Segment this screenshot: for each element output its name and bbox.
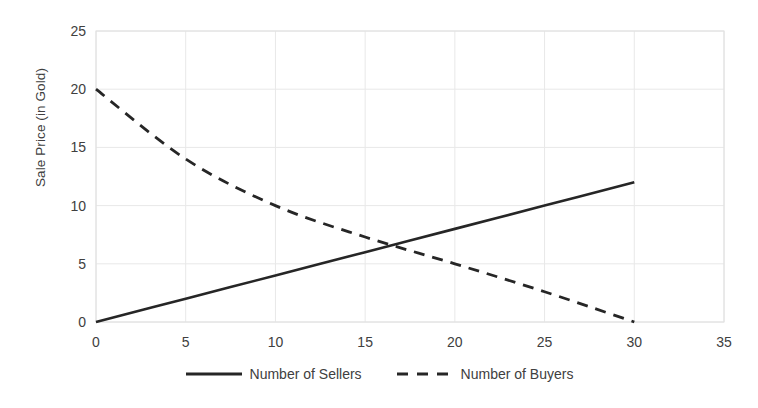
y-tick-label: 15 bbox=[40, 139, 86, 155]
chart-container: Sale Price (in Gold) 0510152025 05101520… bbox=[0, 0, 758, 408]
x-tick-label: 20 bbox=[447, 334, 463, 350]
dashed-line-swatch bbox=[396, 368, 454, 380]
gridlines bbox=[96, 31, 724, 322]
y-tick-label: 10 bbox=[40, 198, 86, 214]
chart-legend: Number of SellersNumber of Buyers bbox=[0, 366, 758, 382]
x-tick-label: 25 bbox=[537, 334, 553, 350]
plot-border bbox=[96, 31, 724, 322]
x-tick-label: 15 bbox=[357, 334, 373, 350]
x-tick-label: 35 bbox=[716, 334, 732, 350]
y-tick-label: 5 bbox=[40, 256, 86, 272]
x-tick-label: 0 bbox=[92, 334, 100, 350]
y-tick-label: 20 bbox=[40, 81, 86, 97]
x-tick-label: 10 bbox=[268, 334, 284, 350]
legend-item[interactable]: Number of Sellers bbox=[185, 366, 362, 382]
x-tick-label: 5 bbox=[182, 334, 190, 350]
plot-area bbox=[0, 0, 758, 408]
solid-line-swatch bbox=[185, 368, 243, 380]
legend-label: Number of Buyers bbox=[461, 366, 574, 382]
legend-item[interactable]: Number of Buyers bbox=[396, 366, 574, 382]
y-tick-label: 0 bbox=[40, 314, 86, 330]
x-tick-label: 30 bbox=[626, 334, 642, 350]
y-tick-label: 25 bbox=[40, 23, 86, 39]
legend-label: Number of Sellers bbox=[250, 366, 362, 382]
